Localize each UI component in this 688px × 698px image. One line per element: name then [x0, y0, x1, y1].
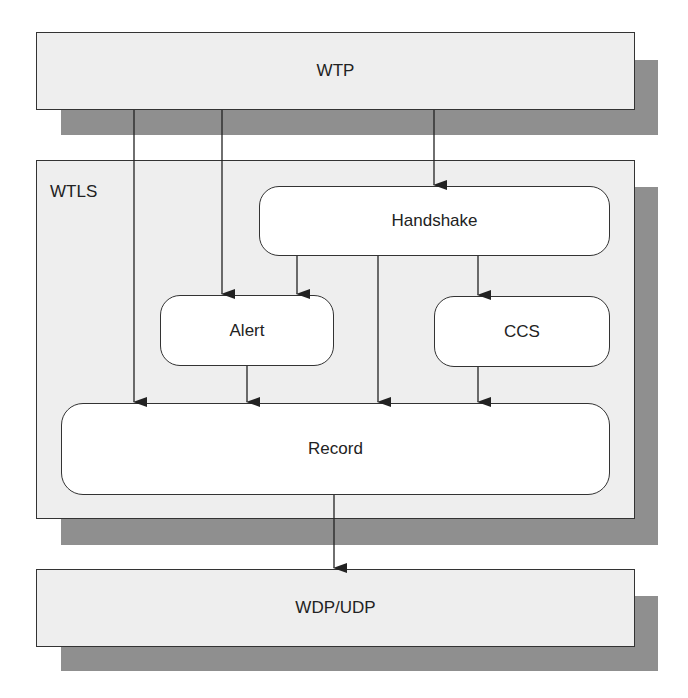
arrows-layer	[0, 0, 688, 698]
